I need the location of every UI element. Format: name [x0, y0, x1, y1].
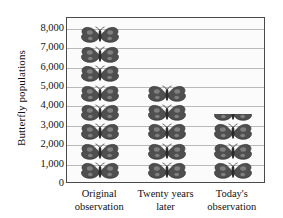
butterfly-icon	[77, 162, 123, 181]
y-tick-label: 6,000	[14, 61, 64, 72]
x-tick-label: Today'sobservation	[190, 187, 274, 213]
x-tick-label-line: observation	[190, 200, 274, 213]
butterfly-icon	[144, 162, 190, 181]
butterfly-column	[210, 17, 256, 182]
butterfly-population-pictograph: Butterfly populations 01,0002,0003,0004,…	[0, 0, 283, 218]
butterfly-icon	[210, 162, 256, 181]
butterfly-icon	[210, 123, 256, 142]
butterfly-column	[77, 17, 123, 182]
y-tick-label: 8,000	[14, 23, 64, 34]
y-tick-label: 7,000	[14, 42, 64, 53]
butterfly-column	[144, 17, 190, 182]
x-axis-tick-labels: OriginalobservationTwenty yearslaterToda…	[66, 185, 265, 218]
butterfly-icon	[77, 65, 123, 84]
x-tick-label-line: Today's	[190, 187, 274, 200]
y-axis-tick-labels: 01,0002,0003,0004,0005,0006,0007,0008,00…	[14, 0, 64, 218]
plot-area	[66, 17, 265, 183]
butterfly-icon	[144, 123, 190, 142]
butterfly-icon	[77, 104, 123, 123]
y-tick-label: 2,000	[14, 139, 64, 150]
butterfly-icon	[77, 26, 123, 45]
y-tick-label: 4,000	[14, 100, 64, 111]
butterfly-icon	[144, 104, 190, 123]
butterfly-icon	[77, 143, 123, 162]
butterfly-icon	[144, 85, 190, 104]
y-tick-label: 5,000	[14, 81, 64, 92]
butterfly-icon	[77, 46, 123, 65]
butterfly-icon	[77, 85, 123, 104]
butterfly-icon	[210, 143, 256, 162]
butterfly-icon	[77, 123, 123, 142]
butterfly-icon	[144, 143, 190, 162]
y-tick-label: 1,000	[14, 158, 64, 169]
butterfly-icon-partial	[210, 114, 256, 124]
y-tick-label: 3,000	[14, 120, 64, 131]
